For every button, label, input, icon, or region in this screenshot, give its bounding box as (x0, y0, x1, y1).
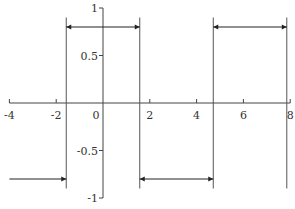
segment-start-marker (140, 177, 145, 182)
y-tick-label: 1 (91, 2, 98, 15)
segment-end-marker (208, 177, 213, 182)
y-tick-label: -0.5 (77, 145, 98, 158)
x-tick-label: 4 (193, 109, 200, 122)
x-tick-label: 6 (240, 109, 247, 122)
segment-end-marker (135, 25, 140, 30)
x-tick-label: -2 (51, 109, 62, 122)
step-function-plot: -4-20246810.5-0.5-1 (0, 0, 295, 209)
segment-end-marker (282, 25, 287, 30)
segment-start-marker (213, 25, 218, 30)
x-tick-label: 0 (93, 109, 100, 122)
y-tick-label: 0.5 (81, 50, 99, 63)
x-tick-label: -4 (4, 109, 15, 122)
x-tick-label: 2 (146, 109, 153, 122)
x-tick-label: 8 (287, 109, 294, 122)
segment-start-marker (66, 25, 71, 30)
segment-end-marker (61, 177, 66, 182)
y-tick-label: -1 (87, 192, 98, 205)
